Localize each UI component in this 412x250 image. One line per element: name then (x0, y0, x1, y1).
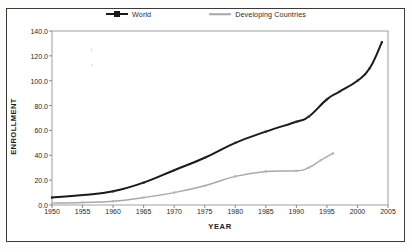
scan-speckle (91, 64, 93, 66)
x-tick-label: 1985 (251, 208, 281, 215)
x-tick-label: 1975 (190, 208, 220, 215)
x-tick-label: 1955 (68, 208, 98, 215)
x-tick-label: 1990 (281, 208, 311, 215)
scan-speckle (115, 50, 117, 51)
x-axis-tick-labels: 1950195519601965197019751980198519901995… (0, 0, 412, 250)
x-tick-label: 1995 (312, 208, 342, 215)
x-tick-label: 1950 (37, 208, 67, 215)
x-tick-label: 2000 (342, 208, 372, 215)
x-tick-label: 1965 (129, 208, 159, 215)
x-tick-label: 2005 (373, 208, 403, 215)
plot-area: 0.020.040.060.080.0100.0120.0140.0 19501… (0, 0, 412, 250)
x-tick-label: 1980 (220, 208, 250, 215)
x-tick-label: 1960 (98, 208, 128, 215)
x-tick-label: 1970 (159, 208, 189, 215)
